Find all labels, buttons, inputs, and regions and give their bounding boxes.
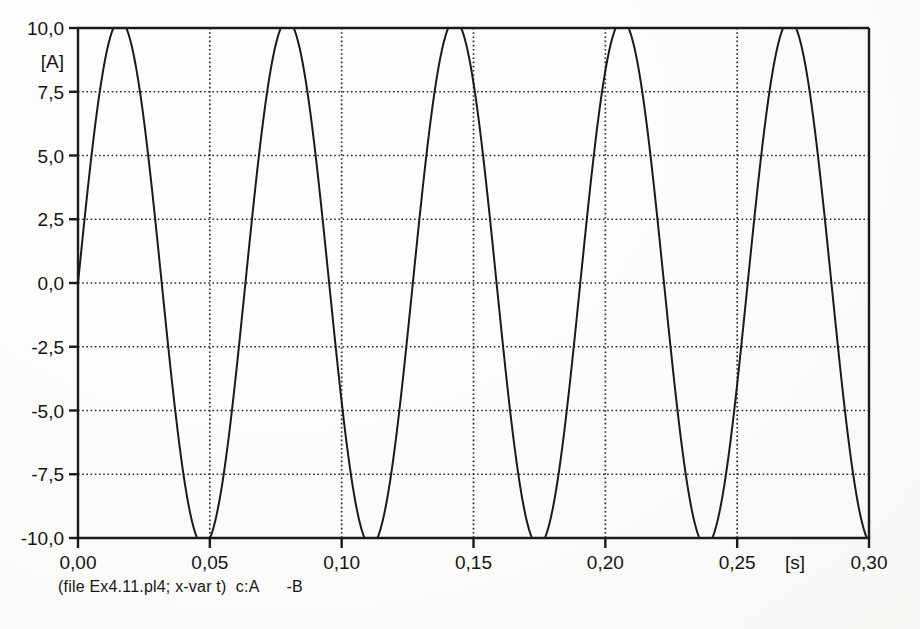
chart-figure: 10,07,55,02,50,0-2,5-5,0-7,5-10,0 0,000,… [0, 0, 920, 629]
y-tick-label: -7,5 [31, 464, 64, 485]
x-tick-label: 0,30 [851, 552, 888, 573]
x-axis-unit-label: [s] [785, 552, 805, 573]
y-axis-unit-label: [A] [41, 51, 64, 72]
x-tick-label: 0,00 [60, 552, 97, 573]
x-tick-label: 0,10 [323, 552, 360, 573]
y-tick-label: 5,0 [38, 146, 64, 167]
y-tick-label: -10,0 [21, 528, 64, 549]
figure-caption: (file Ex4.11.pl4; x-var t) c:A -B [58, 578, 303, 596]
x-tick-label: 0,15 [455, 552, 492, 573]
y-axis-tick-labels: 10,07,55,02,50,0-2,5-5,0-7,5-10,0 [21, 18, 64, 549]
x-tick-label: 0,20 [587, 552, 624, 573]
y-tick-label: -5,0 [31, 401, 64, 422]
y-tick-label: 7,5 [38, 82, 64, 103]
y-tick-label: 10,0 [27, 18, 64, 39]
x-axis-tick-labels: 0,000,050,100,150,200,250,30 [60, 552, 888, 573]
x-tick-label: 0,25 [719, 552, 756, 573]
horizontal-gridlines [78, 92, 869, 475]
y-tick-label: -2,5 [31, 337, 64, 358]
x-tick-label: 0,05 [191, 552, 228, 573]
y-tick-label: 0,0 [38, 273, 64, 294]
y-tick-label: 2,5 [38, 209, 64, 230]
chart-canvas: 10,07,55,02,50,0-2,5-5,0-7,5-10,0 0,000,… [0, 0, 920, 629]
axis-unit-labels: [A][s] [41, 51, 805, 573]
